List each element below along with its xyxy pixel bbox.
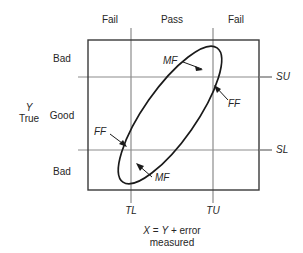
x-caption-symbol-x: X: [143, 225, 150, 236]
x-caption-symbol-y: Y: [161, 225, 168, 236]
x-axis-caption-line2: measured: [150, 237, 194, 248]
callout-label-mf-lower: MF: [155, 172, 169, 183]
callout-arrow-ff-right: [214, 85, 228, 100]
callout-arrow-mf-upper: [183, 62, 203, 71]
top-label-fail-right: Fail: [228, 14, 244, 25]
y-axis-label-true: True: [19, 113, 39, 124]
callout-label-ff-left: FF: [94, 126, 106, 137]
left-label-bad-lower: Bad: [53, 166, 71, 177]
right-label-su: SU: [276, 71, 290, 82]
y-axis-label-symbol: Y: [26, 102, 33, 113]
right-label-sl: SL: [276, 144, 288, 155]
diagram-svg: [0, 0, 303, 253]
callout-label-mf-upper: MF: [163, 55, 177, 66]
top-label-pass: Pass: [161, 14, 183, 25]
bottom-label-tl: TL: [125, 205, 137, 216]
x-caption-rest: + error: [168, 225, 201, 236]
x-axis-caption-line1: X = Y + error: [143, 225, 200, 236]
left-label-bad-upper: Bad: [53, 53, 71, 64]
x-caption-equals: =: [150, 225, 161, 236]
top-label-fail-left: Fail: [102, 14, 118, 25]
callout-arrow-ff-left: [110, 134, 127, 147]
diagram-canvas: Fail Pass Fail Bad Good Bad Y True SU SL…: [0, 0, 303, 253]
bottom-label-tu: TU: [206, 205, 219, 216]
callout-label-ff-right: FF: [228, 98, 240, 109]
callout-arrow-mf-lower: [136, 163, 152, 177]
left-label-good: Good: [50, 110, 74, 121]
